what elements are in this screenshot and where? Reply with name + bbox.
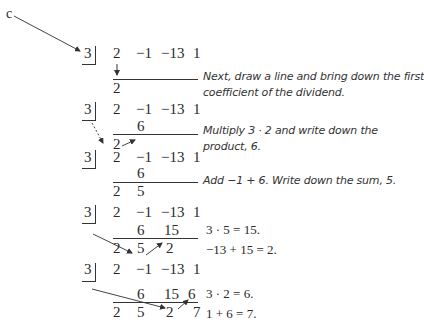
division-line	[113, 134, 198, 135]
step1-note-2: coefficient of the dividend.	[203, 86, 345, 99]
coef-0: 2	[113, 149, 121, 166]
coef-0: 2	[113, 101, 121, 118]
division-line	[113, 79, 198, 80]
coef-3: 1	[193, 101, 201, 118]
bottom-0: 2	[113, 80, 121, 97]
step2-note-2: product, 6.	[203, 140, 261, 153]
bottom-1: 5	[137, 240, 145, 257]
division-line	[113, 302, 198, 303]
diag-arrow-icon	[92, 289, 165, 308]
divisor: 3	[84, 261, 92, 278]
step4-note-1: 3 · 5 = 15.	[206, 222, 260, 238]
coef-3: 1	[193, 261, 201, 278]
product-0: 6	[137, 118, 145, 135]
step5-note-2: 1 + 6 = 7.	[206, 306, 256, 322]
product-1: 15	[164, 286, 179, 303]
up-arrow-icon	[122, 140, 135, 146]
division-line	[113, 182, 198, 183]
bottom-0: 2	[113, 183, 121, 200]
divisor: 3	[84, 149, 92, 166]
product-0: 6	[137, 165, 145, 182]
c-arrow-icon	[14, 16, 80, 51]
coef-1: −1	[136, 101, 152, 118]
product-0: 6	[137, 222, 145, 239]
divisor: 3	[84, 204, 92, 221]
coef-0: 2	[113, 204, 121, 221]
label-c: c	[6, 6, 12, 22]
product-2: 6	[188, 286, 196, 303]
divisor: 3	[84, 101, 92, 118]
bottom-3: 7	[193, 304, 201, 321]
coef-0: 2	[113, 261, 121, 278]
division-line	[113, 238, 198, 239]
coef-1: −1	[136, 149, 152, 166]
step4-note-2: −13 + 15 = 2.	[206, 242, 277, 258]
product-1: 15	[164, 222, 179, 239]
bottom-2: 2	[166, 240, 174, 257]
coef-2: −13	[161, 45, 184, 62]
product-0: 6	[137, 286, 145, 303]
divisor: 3	[84, 45, 92, 62]
coef-1: −1	[136, 204, 152, 221]
coef-3: 1	[193, 45, 201, 62]
bottom-1: 5	[137, 304, 145, 321]
bottom-0: 2	[113, 240, 121, 257]
bottom-2: 2	[166, 304, 174, 321]
coef-3: 1	[193, 204, 201, 221]
coef-2: −13	[161, 261, 184, 278]
up-arrow-icon	[146, 243, 162, 255]
bottom-0: 2	[113, 304, 121, 321]
coef-1: −1	[136, 45, 152, 62]
step3-note: Add −1 + 6. Write down the sum, 5.	[203, 174, 396, 187]
coef-2: −13	[161, 149, 184, 166]
dashed-arrow-icon	[92, 123, 103, 143]
bottom-1: 5	[137, 183, 145, 200]
step2-note-1: Multiply 3 · 2 and write down the	[203, 124, 378, 137]
coef-3: 1	[193, 149, 201, 166]
step5-note-1: 3 · 2 = 6.	[206, 286, 253, 302]
coef-0: 2	[113, 45, 121, 62]
coef-2: −13	[161, 204, 184, 221]
step1-note-1: Next, draw a line and bring down the fir…	[203, 70, 424, 83]
coef-1: −1	[136, 261, 152, 278]
coef-2: −13	[161, 101, 184, 118]
